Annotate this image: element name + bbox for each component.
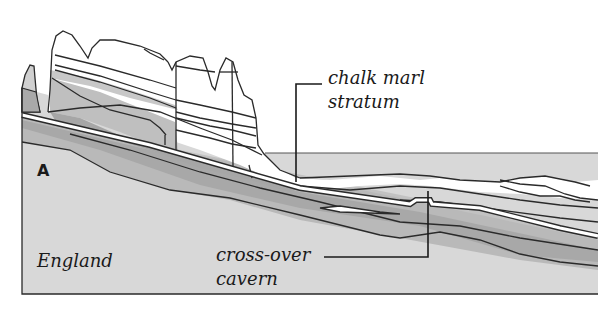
left-pinnacle-lower (22, 88, 40, 112)
region-label-england: England (37, 249, 113, 273)
stratum-label-line2: stratum (328, 90, 400, 114)
cavern-label-line1: cross-over (216, 243, 310, 267)
stratum-label-line1: chalk marl (328, 66, 425, 90)
cavern-label-line2: cavern (216, 267, 278, 291)
section-marker-label: A (37, 161, 49, 180)
